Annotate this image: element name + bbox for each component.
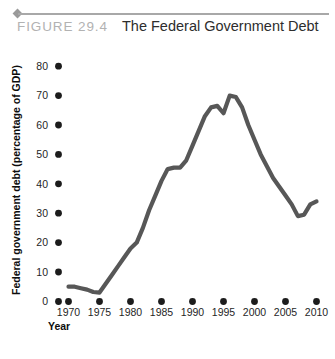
- chart-container: Federal government debt (percentage of G…: [0, 42, 335, 359]
- x-tick-label: 1975: [88, 306, 112, 318]
- x-axis-ticks: 197019751980198519901995200020052010: [55, 298, 328, 318]
- figure-number-label: FIGURE 29.4: [17, 19, 108, 34]
- debt-line-chart: Federal government debt (percentage of G…: [0, 42, 335, 359]
- y-axis-title: Federal government debt (percentage of G…: [10, 65, 22, 295]
- x-tick-dot: [96, 298, 103, 305]
- y-tick-dot: [55, 180, 62, 187]
- x-tick-dot: [251, 298, 258, 305]
- y-tick-label: 80: [36, 60, 48, 72]
- y-tick-dot: [55, 92, 62, 99]
- figure-header: FIGURE 29.4 The Federal Government Debt: [0, 0, 335, 42]
- y-tick-label: 20: [36, 236, 48, 248]
- x-tick-dot: [313, 298, 320, 305]
- x-tick-label: 2010: [305, 306, 329, 318]
- x-tick-dot: [127, 298, 134, 305]
- x-tick-label: 2005: [274, 306, 298, 318]
- y-tick-dot: [55, 210, 62, 217]
- x-tick-dot: [220, 298, 227, 305]
- x-axis-title: Year: [48, 320, 70, 332]
- x-tick-label: 2000: [243, 306, 267, 318]
- y-tick-label: 40: [36, 178, 48, 190]
- y-tick-label: 30: [36, 207, 48, 219]
- y-tick-dot: [55, 63, 62, 70]
- figure-title: The Federal Government Debt: [122, 18, 319, 34]
- origin-dot: [55, 298, 62, 305]
- y-tick-label: 50: [36, 148, 48, 160]
- x-tick-dot: [282, 298, 289, 305]
- y-tick-label: 10: [36, 266, 48, 278]
- y-tick-dot: [55, 151, 62, 158]
- y-axis-ticks: 1020304050607080: [36, 60, 62, 278]
- x-tick-label: 1980: [119, 306, 143, 318]
- x-tick-label: 1995: [212, 306, 236, 318]
- y-tick-dot: [55, 269, 62, 276]
- y-tick-label: 60: [36, 119, 48, 131]
- header-divider: [18, 13, 329, 15]
- x-tick-label: 1985: [150, 306, 174, 318]
- x-tick-label: 1990: [181, 306, 205, 318]
- y-tick-dot: [55, 239, 62, 246]
- origin-label: 0: [42, 295, 48, 307]
- x-tick-dot: [65, 298, 72, 305]
- debt-series-line: [69, 96, 317, 293]
- x-tick-dot: [158, 298, 165, 305]
- x-tick-label: 1970: [57, 306, 81, 318]
- y-tick-dot: [55, 122, 62, 129]
- x-tick-dot: [189, 298, 196, 305]
- y-tick-label: 70: [36, 89, 48, 101]
